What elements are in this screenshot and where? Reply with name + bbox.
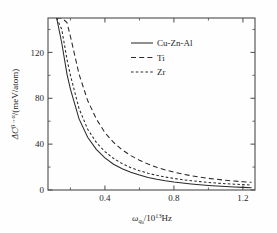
y-tick-label: 120 [31,48,45,58]
y-title-symbol: ΔC [10,127,20,140]
curve-cu-zn-al [57,18,252,188]
tick-labels: 0.40.81.204080120 [31,48,249,203]
x-title-main: /10 [144,213,156,223]
chart-plot: 0.40.81.204080120 Cu-Zn-AlTiZr ωq0/1013H… [0,0,277,233]
axis-ticks [48,18,255,190]
svg-text:ΔCβ→α/(meV/atom): ΔCβ→α/(meV/atom) [9,69,20,140]
y-tick-label: 40 [35,139,45,149]
svg-text:ωq0/1013Hz: ωq0/1013Hz [132,212,172,226]
axes-frame [48,18,255,190]
legend: Cu-Zn-AlTiZr [131,38,193,77]
legend-label-zr: Zr [157,67,166,77]
curve-zr [57,18,252,185]
y-title-unit: /(meV/atom) [10,69,20,116]
x-tick-label: 0.4 [99,193,111,203]
y-title-exp: β→α [9,115,16,128]
x-title-unit: Hz [161,213,172,223]
legend-label-ti: Ti [157,53,165,63]
curve-ti [57,18,252,182]
x-axis-title: ωq0/1013Hz [132,212,172,226]
y-tick-label: 0 [40,185,45,195]
data-curves [57,18,252,188]
y-tick-label: 80 [35,93,45,103]
legend-label-cu-zn-al: Cu-Zn-Al [157,38,193,48]
x-tick-label: 1.2 [237,193,248,203]
figure-container: 0.40.81.204080120 Cu-Zn-AlTiZr ωq0/1013H… [0,0,277,233]
y-axis-title: ΔCβ→α/(meV/atom) [9,69,20,140]
x-tick-label: 0.8 [168,193,180,203]
